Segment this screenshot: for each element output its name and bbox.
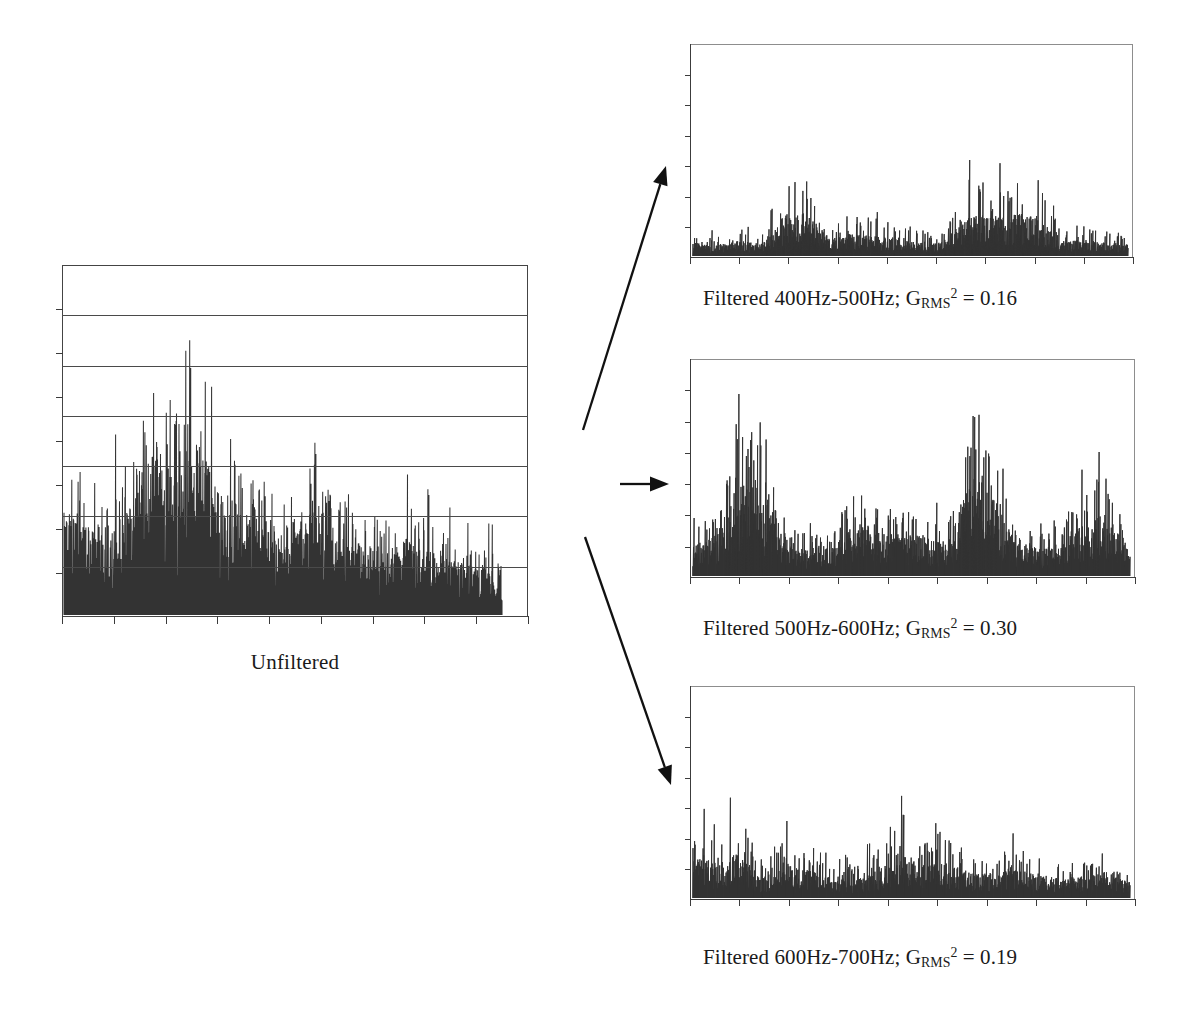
- filtered-500-600-chart-panel: [690, 359, 1135, 578]
- filtered-x-tick: [788, 257, 789, 264]
- filtered-y-tick: [685, 808, 691, 809]
- unfiltered-gridline: [62, 315, 528, 316]
- caption-suffix-2: = 0.19: [957, 945, 1017, 969]
- filtered-y-tick: [685, 227, 691, 228]
- filtered-600-700-caption: Filtered 600Hz-700Hz; GRMS2 = 0.19: [703, 945, 1017, 971]
- filtered-x-tick: [987, 899, 988, 906]
- filtered-x-tick: [690, 577, 691, 584]
- filtered-y-tick: [685, 747, 691, 748]
- caption-prefix-0: Filtered 400Hz-500Hz; G: [703, 286, 921, 310]
- filtered-x-tick: [1036, 577, 1037, 584]
- filtered-y-tick: [685, 390, 691, 391]
- caption-sub-0: RMS: [921, 296, 950, 311]
- filtered-y-tick: [685, 778, 691, 779]
- filtered-x-tick: [838, 257, 839, 264]
- filtered-y-tick: [685, 869, 691, 870]
- arrow-to-400-500: [583, 166, 667, 430]
- filtered-500-600-caption: Filtered 500Hz-600Hz; GRMS2 = 0.30: [703, 616, 1017, 642]
- unfiltered-gridline: [62, 567, 528, 568]
- unfiltered-x-tick: [321, 616, 322, 624]
- caption-prefix-1: Filtered 500Hz-600Hz; G: [703, 616, 921, 640]
- filtered-400-500-chart-panel: [690, 44, 1133, 258]
- filtered-y-tick: [685, 484, 691, 485]
- filtered-y-tick: [685, 105, 691, 106]
- filtered-x-tick: [739, 257, 740, 264]
- unfiltered-y-tick: [56, 397, 63, 398]
- unfiltered-chart-frame: [62, 265, 528, 617]
- filtered-x-tick: [739, 899, 740, 906]
- filtered-400-500-y-axis: [690, 44, 691, 258]
- unfiltered-gridline: [62, 466, 528, 467]
- filtered-x-tick: [937, 899, 938, 906]
- filtered-x-tick: [887, 257, 888, 264]
- filtered-y-tick: [685, 453, 691, 454]
- filtered-600-700-chart-panel: [690, 686, 1135, 900]
- filtered-y-tick: [685, 197, 691, 198]
- filtered-x-tick: [789, 899, 790, 906]
- filtered-x-tick: [987, 577, 988, 584]
- filtered-x-tick: [888, 577, 889, 584]
- filtered-500-600-y-axis: [690, 359, 691, 578]
- filtered-x-tick: [937, 577, 938, 584]
- unfiltered-y-tick: [56, 441, 63, 442]
- unfiltered-x-tick: [424, 616, 425, 624]
- arrow-to-600-700: [585, 537, 672, 785]
- filtered-x-tick: [690, 899, 691, 906]
- filtered-x-tick: [1135, 899, 1136, 906]
- unfiltered-chart-panel: [62, 265, 528, 617]
- filtered-x-tick: [936, 257, 937, 264]
- filtered-y-tick: [685, 717, 691, 718]
- filtered-x-tick: [739, 577, 740, 584]
- filtered-x-tick: [1086, 899, 1087, 906]
- filtered-y-tick: [685, 166, 691, 167]
- filtered-x-tick: [985, 257, 986, 264]
- filtered-y-tick: [685, 515, 691, 516]
- filtered-y-tick: [685, 75, 691, 76]
- filtered-x-tick: [1036, 899, 1037, 906]
- unfiltered-x-tick: [166, 616, 167, 624]
- filtered-x-tick: [838, 577, 839, 584]
- unfiltered-x-tick: [528, 616, 529, 624]
- unfiltered-gridline: [62, 516, 528, 517]
- unfiltered-y-tick: [56, 573, 63, 574]
- caption-sub-2: RMS: [921, 955, 950, 970]
- unfiltered-x-tick: [269, 616, 270, 624]
- filtered-600-700-x-axis: [690, 899, 1135, 900]
- caption-suffix-0: = 0.16: [957, 286, 1017, 310]
- unfiltered-x-tick: [373, 616, 374, 624]
- filtered-y-tick: [685, 547, 691, 548]
- filtered-y-tick: [685, 136, 691, 137]
- filtered-500-600-x-axis: [690, 577, 1135, 578]
- filtered-x-tick: [838, 899, 839, 906]
- filtered-x-tick: [1135, 577, 1136, 584]
- unfiltered-gridline: [62, 416, 528, 417]
- filtered-600-700-y-axis: [690, 686, 691, 900]
- figure-canvas: Unfiltered Filtered 400Hz-500Hz; GRMS2 =…: [0, 0, 1190, 1013]
- caption-prefix-2: Filtered 600Hz-700Hz; G: [703, 945, 921, 969]
- unfiltered-gridline: [62, 366, 528, 367]
- unfiltered-y-tick: [56, 353, 63, 354]
- arrow-to-500-600: [620, 477, 669, 492]
- filtered-x-tick: [1084, 257, 1085, 264]
- filtered-x-tick: [690, 257, 691, 264]
- caption-suffix-1: = 0.30: [957, 616, 1017, 640]
- unfiltered-x-tick: [217, 616, 218, 624]
- unfiltered-x-tick: [476, 616, 477, 624]
- filtered-x-tick: [888, 899, 889, 906]
- filtered-x-tick: [789, 577, 790, 584]
- unfiltered-x-tick: [62, 616, 63, 624]
- filtered-500-600-chart-frame: [690, 359, 1135, 578]
- filtered-600-700-chart-frame: [690, 686, 1135, 900]
- unfiltered-caption: Unfiltered: [62, 650, 528, 675]
- unfiltered-y-tick: [56, 485, 63, 486]
- filtered-x-tick: [1133, 257, 1134, 264]
- filtered-400-500-x-axis: [690, 257, 1133, 258]
- filtered-x-tick: [1035, 257, 1036, 264]
- unfiltered-y-tick: [56, 529, 63, 530]
- caption-sub-1: RMS: [921, 626, 950, 641]
- unfiltered-y-tick: [56, 309, 63, 310]
- filtered-x-tick: [1086, 577, 1087, 584]
- unfiltered-x-tick: [114, 616, 115, 624]
- filtered-y-tick: [685, 422, 691, 423]
- filtered-400-500-caption: Filtered 400Hz-500Hz; GRMS2 = 0.16: [703, 286, 1017, 312]
